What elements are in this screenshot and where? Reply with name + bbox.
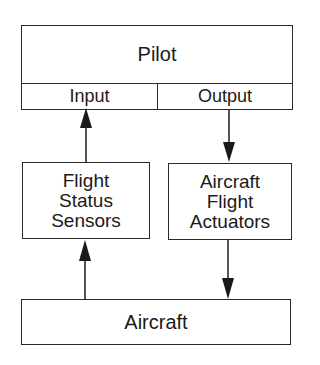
pilot-title: Pilot	[138, 43, 177, 66]
sensors-line-1: Flight	[63, 171, 109, 191]
flight-status-sensors-box: Flight Status Sensors	[22, 162, 150, 239]
actuators-line-3: Actuators	[190, 212, 270, 232]
arrow-actuators-to-aircraft	[222, 240, 234, 299]
pilot-output-label: Output	[198, 86, 252, 107]
arrow-aircraft-to-sensors	[79, 240, 91, 299]
aircraft-flight-actuators-box: Aircraft Flight Actuators	[168, 163, 292, 240]
pilot-box: Pilot Input Output	[21, 25, 293, 110]
pilot-input-label: Input	[69, 86, 109, 107]
aircraft-box: Aircraft	[21, 299, 291, 345]
arrow-pilot-output-to-actuators	[223, 110, 235, 162]
actuators-line-1: Aircraft	[200, 172, 260, 192]
sensors-line-3: Sensors	[51, 211, 121, 231]
pilot-input-cell: Input	[22, 83, 157, 109]
actuators-line-2: Flight	[207, 192, 253, 212]
pilot-title-cell: Pilot	[22, 26, 292, 83]
sensors-line-2: Status	[59, 191, 113, 211]
arrow-sensors-to-pilot-input	[80, 108, 92, 162]
pilot-output-cell: Output	[158, 83, 292, 109]
aircraft-title: Aircraft	[124, 311, 187, 334]
